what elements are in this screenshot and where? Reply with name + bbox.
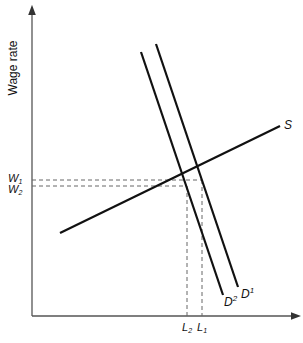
l2-label: L2 [182,321,192,334]
d1-label: D1 [241,286,254,301]
demand-curve-d2 [141,52,223,295]
guide-lines [32,180,202,316]
d2-label: D2 [224,294,238,309]
labor-market-diagram: Wage rate S D2 D1 W1 W2 L2 L1 [0,0,303,343]
l1-label: L1 [197,321,207,334]
demand-curve-d1 [156,44,238,287]
supply-curve [60,126,280,233]
supply-label: S [284,118,292,132]
y-axis-label: Wage rate [6,40,20,95]
